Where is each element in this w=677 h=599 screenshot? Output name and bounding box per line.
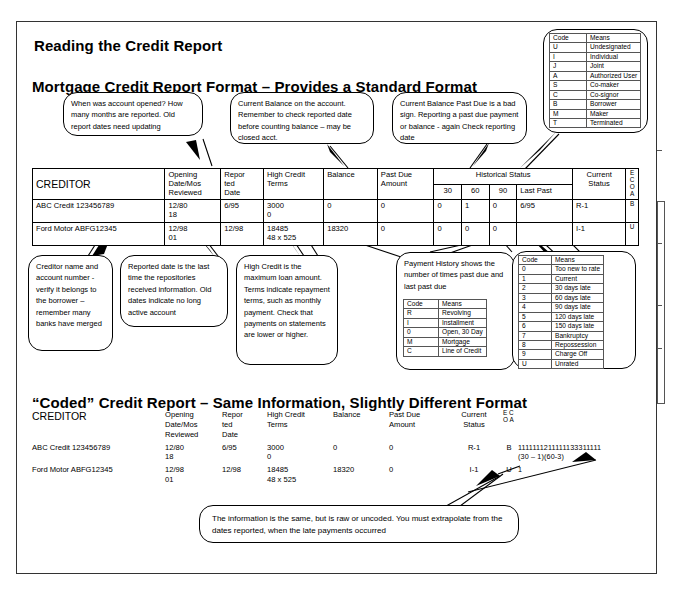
table-row: 5120 days late	[519, 312, 604, 321]
cell-h30: 0	[434, 200, 462, 223]
means-cell: Maker	[587, 109, 641, 118]
table-header-row: CREDITOR Opening Date/Mos Reviewed Repor…	[33, 169, 639, 185]
code-cell: I	[404, 318, 439, 327]
table-row: CLine of Credit	[404, 347, 487, 356]
coded-col-current-status: Current Status	[448, 410, 503, 440]
callout-current-balance: Current Balance on the account. Remember…	[230, 92, 374, 144]
means-cell: Undesignated	[587, 43, 641, 52]
table-row: CCo-signor	[550, 90, 641, 99]
cell-opening: 12/80 18	[165, 440, 222, 463]
cell-h60: 1	[462, 200, 490, 223]
means-cell: 30 days late	[552, 284, 604, 293]
table-row: 0Open, 30 Day	[404, 328, 487, 337]
callout-reported-date: Reported date is the last time the repos…	[120, 255, 228, 327]
callout-opening-date: When was account opened? How many months…	[63, 92, 203, 136]
means-cell: Charge Off	[552, 350, 604, 359]
cell-payment-history: 1	[518, 462, 642, 485]
col-hist-60: 60	[462, 184, 490, 200]
col-hist-90: 90	[489, 184, 517, 200]
means-cell: Co-signor	[587, 90, 641, 99]
cell-reported: 12/98	[221, 223, 264, 246]
code-cell: U	[550, 43, 587, 52]
coded-col-balance: Balance	[333, 410, 389, 440]
col-historical-status: Historical Status	[434, 169, 573, 185]
table-row: 7Bankruptcy	[519, 331, 604, 340]
table-header-row: Code Means	[519, 256, 604, 265]
code-cell: C	[404, 347, 439, 356]
mortgage-report-table: CREDITOR Opening Date/Mos Reviewed Repor…	[32, 168, 639, 246]
cell-reported: 12/98	[222, 462, 267, 485]
coded-col-history	[518, 410, 642, 440]
means-cell: Open, 30 Day	[439, 328, 487, 337]
table-row: TTerminated	[550, 118, 641, 127]
cell-current-status: R-1	[448, 440, 503, 463]
table-row: Ford Motor ABFG12345 12/98 01 12/98 1848…	[32, 462, 642, 485]
col-hist-30: 30	[434, 184, 462, 200]
code-cell: 9	[519, 350, 552, 359]
means-cell: Revolving	[439, 309, 487, 318]
means-cell: Mortgage	[439, 337, 487, 346]
table-header-row: Code Means	[550, 34, 641, 43]
code-cell: A	[550, 71, 587, 80]
code-cell: M	[550, 109, 587, 118]
means-cell: Line of Credit	[439, 347, 487, 356]
cell-opening: 12/80 18	[165, 200, 221, 223]
means-cell: Joint	[587, 62, 641, 71]
means-cell: Repossession	[552, 340, 604, 349]
cell-creditor: Ford Motor ABFG12345	[32, 462, 165, 485]
table-row: 0Too new to rate	[519, 265, 604, 274]
table-row: UUnrated	[519, 359, 604, 368]
cell-ecoa: U	[626, 223, 639, 246]
cell-creditor: ABC Credit 123456789	[32, 440, 165, 463]
table-row: 1Current	[519, 274, 604, 283]
coded-col-reported-date: Repor ted Date	[222, 410, 267, 440]
coded-col-high-credit: High Credit Terms	[267, 410, 333, 440]
table-row: 490 days late	[519, 303, 604, 312]
table-row: JJoint	[550, 62, 641, 71]
ecoa-header-code: Code	[550, 34, 587, 43]
means-cell: Too new to rate	[552, 265, 604, 274]
cell-past-due: 0	[377, 200, 434, 223]
cell-h90: 0	[489, 200, 517, 223]
cell-reported: 6/95	[221, 200, 264, 223]
cell-past-due: 0	[389, 440, 448, 463]
table-row: MMaker	[550, 109, 641, 118]
cell-past-due: 0	[389, 462, 448, 485]
col-balance: Balance	[324, 169, 378, 200]
ecoa-code-table: Code Means UUndesignated IIndividual JJo…	[549, 33, 641, 128]
code-cell: M	[404, 337, 439, 346]
ecoa-header-means: Means	[587, 34, 641, 43]
col-hist-last-past: Last Past	[517, 184, 573, 200]
col-high-credit: High Credit Terms	[264, 169, 324, 200]
callout-past-due: Current Balance Past Due is a bad sign. …	[392, 92, 527, 144]
page-edge-rule-3	[657, 243, 662, 244]
code-cell: U	[519, 359, 552, 368]
table-row: Ford Motor ABFG12345 12/98 01 12/98 1848…	[33, 223, 639, 246]
means-cell: Installment	[439, 318, 487, 327]
means-cell: Bankruptcy	[552, 331, 604, 340]
cell-payment-history: 1111111211111133311111 (30 – 1)(60-3)	[518, 440, 642, 463]
code-cell: B	[550, 100, 587, 109]
callout-reported-date-text: Reported date is the last time the repos…	[128, 261, 220, 318]
callout-creditor-name: Creditor name and account number - verif…	[28, 255, 113, 351]
cell-last-past: 6/95	[517, 200, 573, 223]
table-row: RRevolving	[404, 309, 487, 318]
table-header-row: Code Means	[404, 300, 487, 309]
table-row: 230 days late	[519, 284, 604, 293]
means-cell: 90 days late	[552, 303, 604, 312]
page-edge-rule-4	[657, 305, 662, 306]
page-edge-rule-2	[657, 201, 665, 404]
cell-balance: 18320	[324, 223, 378, 246]
table-header-row: CREDITOR Opening Date/Mos Reviewed Repor…	[32, 410, 642, 440]
cell-balance: 0	[333, 440, 389, 463]
means-cell: 150 days late	[552, 322, 604, 331]
callout-high-credit-text: High Credit is the maximum loan amount. …	[244, 261, 330, 341]
code-cell: 4	[519, 303, 552, 312]
means-cell: 120 days late	[552, 312, 604, 321]
callout-creditor-name-text: Creditor name and account number - verif…	[36, 261, 105, 329]
means-cell: Co-maker	[587, 81, 641, 90]
table-row: 9Charge Off	[519, 350, 604, 359]
rating-header-code: Code	[519, 256, 552, 265]
code-cell: 1	[519, 274, 552, 283]
code-cell: 7	[519, 331, 552, 340]
